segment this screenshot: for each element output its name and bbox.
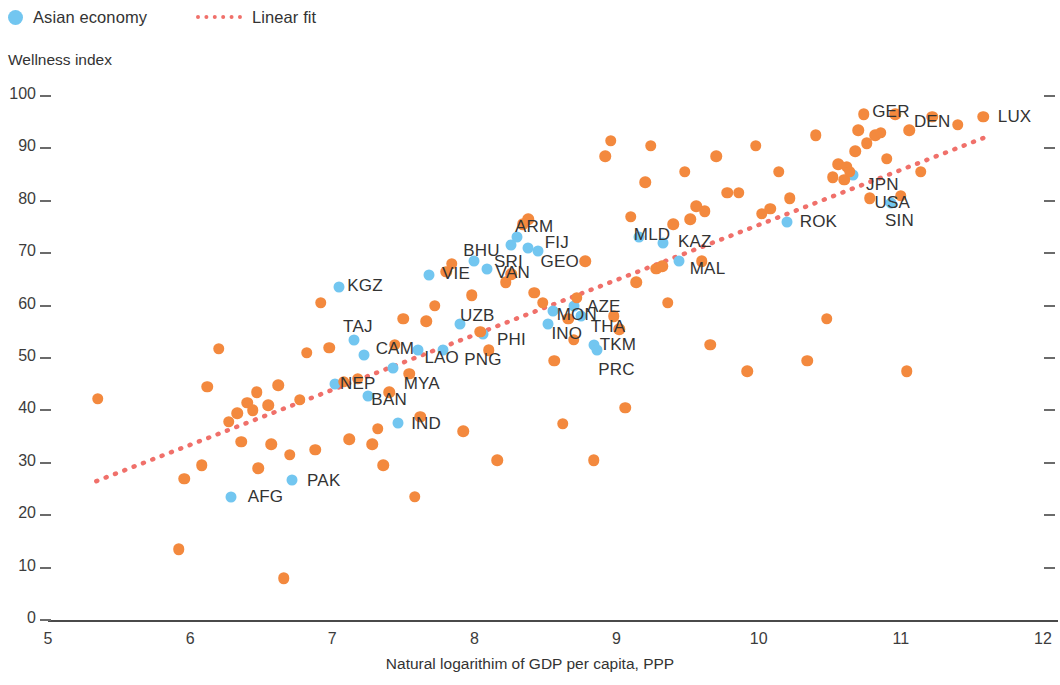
data-point[interactable] <box>263 399 275 411</box>
data-point[interactable] <box>679 166 691 178</box>
data-point[interactable] <box>179 473 191 485</box>
data-point[interactable] <box>309 444 321 456</box>
y-tick-mark <box>40 252 51 254</box>
data-point[interactable] <box>699 206 711 218</box>
data-point[interactable] <box>850 145 862 157</box>
data-point[interactable] <box>784 192 796 204</box>
data-point[interactable] <box>429 300 441 312</box>
data-point[interactable] <box>213 343 225 355</box>
data-point[interactable] <box>674 256 685 267</box>
y-tick-mark <box>1044 305 1055 307</box>
data-point[interactable] <box>619 402 631 414</box>
point-label: ROK <box>800 212 837 232</box>
x-axis-line <box>48 620 1058 622</box>
data-point[interactable] <box>915 166 927 178</box>
data-point[interactable] <box>722 187 734 199</box>
data-point[interactable] <box>710 151 722 163</box>
data-point[interactable] <box>750 140 762 152</box>
data-point[interactable] <box>764 203 776 215</box>
data-point[interactable] <box>662 297 674 309</box>
data-point[interactable] <box>742 365 754 377</box>
data-point[interactable] <box>92 393 104 405</box>
point-label: IND <box>411 414 441 434</box>
data-point[interactable] <box>358 350 369 361</box>
data-point[interactable] <box>388 363 399 374</box>
data-point[interactable] <box>537 297 549 309</box>
data-point[interactable] <box>294 394 306 406</box>
data-point[interactable] <box>392 417 403 428</box>
y-tick-mark <box>40 462 51 464</box>
data-point[interactable] <box>196 460 208 472</box>
data-point[interactable] <box>548 355 560 367</box>
data-point[interactable] <box>287 474 298 485</box>
data-point[interactable] <box>685 213 697 225</box>
data-point[interactable] <box>409 491 421 503</box>
data-point[interactable] <box>301 347 313 359</box>
data-point[interactable] <box>265 439 277 451</box>
data-point[interactable] <box>236 436 248 448</box>
point-label: GER <box>872 102 909 122</box>
data-point[interactable] <box>827 171 839 183</box>
data-point[interactable] <box>881 153 893 165</box>
data-point[interactable] <box>226 491 237 502</box>
data-point[interactable] <box>253 462 265 474</box>
data-point[interactable] <box>378 460 390 472</box>
data-point[interactable] <box>324 342 336 354</box>
data-point[interactable] <box>231 407 243 419</box>
data-point[interactable] <box>491 454 503 466</box>
data-point[interactable] <box>247 405 259 417</box>
data-point[interactable] <box>201 381 213 393</box>
data-point[interactable] <box>528 287 540 299</box>
data-point[interactable] <box>782 216 793 227</box>
x-tick-label: 8 <box>470 630 479 648</box>
data-point[interactable] <box>733 187 745 199</box>
data-point[interactable] <box>810 130 822 142</box>
data-point[interactable] <box>821 313 833 325</box>
data-point[interactable] <box>334 282 345 293</box>
data-point[interactable] <box>858 109 870 121</box>
data-point[interactable] <box>278 572 290 584</box>
data-point[interactable] <box>457 426 469 438</box>
data-point[interactable] <box>366 439 378 451</box>
data-point[interactable] <box>773 166 785 178</box>
data-point[interactable] <box>344 433 356 445</box>
data-point[interactable] <box>284 449 296 461</box>
data-point[interactable] <box>580 255 592 267</box>
point-label: PAK <box>307 471 340 491</box>
data-point[interactable] <box>844 166 856 178</box>
y-tick-mark <box>1044 252 1055 254</box>
data-point[interactable] <box>273 379 285 391</box>
data-point[interactable] <box>466 289 478 301</box>
data-point[interactable] <box>952 119 964 131</box>
point-label: BAN <box>371 390 407 410</box>
point-label: PRC <box>598 360 635 380</box>
data-point[interactable] <box>251 386 263 398</box>
data-point[interactable] <box>420 316 432 328</box>
data-point[interactable] <box>571 292 583 304</box>
data-point[interactable] <box>978 111 990 123</box>
data-point[interactable] <box>173 544 185 556</box>
data-point[interactable] <box>852 124 864 136</box>
data-point[interactable] <box>372 423 384 435</box>
y-tick-label: 60 <box>0 295 36 313</box>
data-point[interactable] <box>474 326 486 338</box>
data-point[interactable] <box>875 127 887 139</box>
data-point[interactable] <box>801 355 813 367</box>
data-point[interactable] <box>645 140 657 152</box>
y-tick-mark <box>40 514 51 516</box>
data-point[interactable] <box>901 365 913 377</box>
data-point[interactable] <box>705 339 717 351</box>
data-point[interactable] <box>398 313 410 325</box>
data-point[interactable] <box>639 177 651 189</box>
data-point[interactable] <box>605 135 617 147</box>
point-label: JPN <box>866 175 899 195</box>
data-point[interactable] <box>631 276 643 288</box>
data-point[interactable] <box>656 261 668 273</box>
data-point[interactable] <box>625 211 637 223</box>
data-point[interactable] <box>315 297 327 309</box>
data-point[interactable] <box>482 263 493 274</box>
data-point[interactable] <box>599 151 611 163</box>
data-point[interactable] <box>423 270 434 281</box>
data-point[interactable] <box>588 454 600 466</box>
data-point[interactable] <box>557 418 569 430</box>
